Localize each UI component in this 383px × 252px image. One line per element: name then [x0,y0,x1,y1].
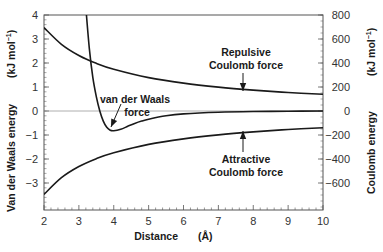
y-left-tick-label: −1 [25,129,38,141]
y-left-title-text: Van der Waals energy [5,104,17,212]
annotation-vdw-line1: van der Waals [100,93,170,105]
x-tick-label: 10 [317,215,329,227]
y-right-tick-label: −200 [325,129,350,141]
y-left-unit: (kJ mol−1) [5,30,17,78]
x-tick-label: 6 [180,215,186,227]
plot-border [44,15,323,210]
x-tick-label: 4 [111,215,117,227]
x-axis-title: Distance [134,230,178,242]
y-right-axis-title: Coulomb energy (kJ mol−1) [365,28,377,194]
y-right-tick-label: −400 [325,153,350,165]
y-left-tick-label: 3 [32,33,38,45]
van-der-waals-force-curve [86,8,323,131]
y-left-tick-label: −3 [25,177,38,189]
x-tick-label: 7 [215,215,221,227]
x-axis-unit: (Å) [198,230,213,242]
y-left-axis-title: Van der Waals energy (kJ mol−1) [5,30,17,212]
axis-ticks: 234567891043210−1−2−38006004002000−200−4… [25,9,350,227]
energy-vs-distance-chart: 234567891043210−1−2−38006004002000−200−4… [0,0,383,252]
y-left-tick-label: 1 [32,81,38,93]
x-tick-label: 9 [285,215,291,227]
y-right-tick-label: 600 [332,33,350,45]
y-right-tick-label: −600 [325,177,350,189]
y-right-tick-label: 400 [332,57,350,69]
y-right-tick-label: 800 [332,9,350,21]
y-right-tick-label: 200 [332,81,350,93]
annotation-attractive-line2: Coulomb force [209,166,283,178]
x-tick-label: 3 [76,215,82,227]
annotation-repulsive-line1: Repulsive [221,46,271,58]
x-tick-label: 2 [41,215,47,227]
annotation-attractive-line1: Attractive [222,153,271,165]
y-right-title-text: Coulomb energy [365,111,377,194]
x-tick-label: 5 [146,215,152,227]
y-right-unit: (kJ mol−1) [365,28,377,76]
annotation-repulsive-line2: Coulomb force [209,59,283,71]
y-left-tick-label: 0 [32,105,38,117]
plot-frame [44,15,323,210]
attractive-coulomb-force-curve [44,128,323,195]
y-left-tick-label: 2 [32,57,38,69]
annotation-vdw-line2: force [124,106,150,118]
y-right-tick-label: 0 [344,105,350,117]
vdw-arrow-head [111,118,117,127]
y-left-tick-label: 4 [32,9,38,21]
y-left-tick-label: −2 [25,153,38,165]
x-tick-label: 8 [250,215,256,227]
